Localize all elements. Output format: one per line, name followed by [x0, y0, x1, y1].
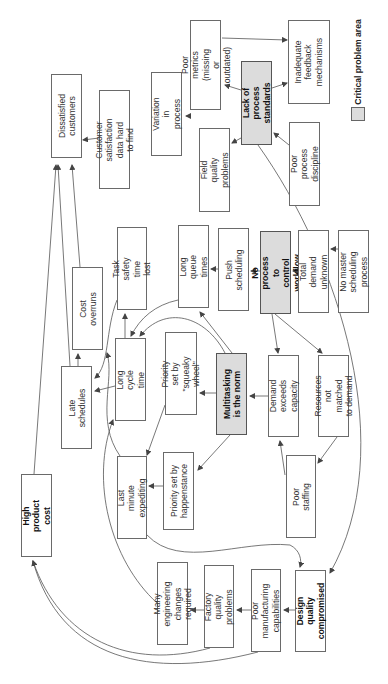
node-label: Design quality compromised [295, 583, 326, 639]
node-lack-standards: Lack of process standards [241, 61, 272, 145]
node-dissatisfied: Dissatisfied customers [51, 74, 82, 158]
node-label: Poor staffing [291, 483, 312, 511]
edge-lack-standards-to-poor-metrics [225, 85, 241, 90]
edge-high-cost-to-dissatisfied [34, 165, 56, 474]
node-label: Long cycle time [115, 370, 146, 390]
edge-squeaky-to-last-minute [147, 405, 165, 455]
node-label: Task safety time lost [111, 257, 153, 280]
edge-no-workflow-to-resources-not [275, 314, 322, 353]
node-label: Poor process discipline [289, 146, 320, 181]
node-poor-staffing: Poor staffing [286, 455, 316, 538]
node-resources-not: Resources not matched to demand [318, 355, 349, 437]
node-no-workflow: No process to control workflow [260, 231, 291, 314]
node-cost-overruns: Cost overruns [72, 267, 103, 350]
edge-poor-staffing-to-demand-exceeds [280, 441, 285, 475]
node-label: Cost overruns [77, 292, 98, 325]
edge-late-sched-to-dissatisfied [58, 165, 70, 366]
node-label: Resources not matched to demand [313, 375, 355, 416]
node-demand-exceeds: Demand exceeds capacity [268, 355, 299, 437]
node-label: Dissatisfied customers [56, 94, 77, 138]
node-label: Multitasking is the norm [221, 369, 242, 419]
edge-poor-discipline-to-lack-standards [274, 133, 289, 145]
node-label: Priority set by happenstance [168, 464, 189, 518]
edge-cost-overruns-to-dissatisfied [72, 165, 80, 267]
node-label: High product cost [21, 500, 52, 532]
node-label: Variation in process [151, 97, 182, 130]
node-design-quality: Design quality compromised [295, 570, 326, 652]
node-label: Inadequate feedback mechanisms [293, 38, 324, 86]
edge-poor-metrics-to-inadequate-feedback [222, 38, 287, 40]
edge-lack-standards-to-inadequate-feedback [272, 83, 287, 88]
node-cust-sat-data: Customer satisfaction data hard to find [99, 90, 130, 189]
node-factory-quality: Factory quality problems [204, 565, 234, 648]
node-late-sched: Late schedules [61, 366, 92, 449]
node-eng-changes: Many engineering changes required [157, 562, 188, 645]
edge-lack-standards-to-field-quality [232, 138, 241, 143]
node-label: No process to control workflow [249, 254, 301, 291]
edge-no-workflow-to-demand-exceeds [272, 314, 278, 353]
node-label: Late schedules [66, 388, 87, 427]
node-poor-discipline: Poor process discipline [289, 122, 320, 206]
node-field-quality: Field quality problems [199, 128, 230, 212]
legend-critical-label: Critical problem area [353, 19, 363, 105]
node-long-cycle: Long cycle time [115, 338, 146, 421]
node-label: Many engineering changes required [152, 581, 194, 626]
node-label: Customer satisfaction data hard to find [94, 118, 136, 161]
node-variation: Variation in process [151, 72, 182, 156]
node-label: Field quality problems [199, 152, 230, 187]
node-high-cost: High product cost [21, 474, 52, 557]
node-poor-mfg: Poor manufacturing capabilities [251, 569, 281, 652]
edge-multitasking-to-happenstance [198, 435, 230, 470]
node-long-queue: Long queue times [178, 225, 209, 308]
edge-long-cycle-to-late-sched [95, 386, 115, 391]
node-no-master: No master scheduling process [338, 230, 369, 313]
node-squeaky: Priority set by "squeaky wheel" [165, 332, 197, 415]
node-inadequate-feedback: Inadequate feedback mechanisms [288, 20, 330, 104]
legend-critical-swatch [351, 107, 365, 121]
edge-resources-not-to-poor-staffing [318, 437, 337, 463]
node-label: Factory quality problems [203, 589, 234, 624]
cause-effect-diagram: Dissatisfied customersCustomer satisfact… [0, 0, 388, 684]
node-label: Demand exceeds capacity [268, 380, 299, 412]
node-label: Poor metrics (missing or outdated) [179, 47, 231, 83]
node-label: No master scheduling process [338, 251, 369, 292]
node-poor-metrics: Poor metrics (missing or outdated) [190, 20, 221, 110]
node-label: Push scheduling [223, 249, 244, 290]
node-total-demand: Total demand unknown [298, 230, 329, 313]
edge-multitasking-to-long-queue [200, 312, 232, 353]
node-push-sched: Push scheduling [218, 228, 249, 311]
node-label: Lack of process standards [241, 82, 272, 123]
node-last-minute: Last minute expediting [117, 456, 147, 539]
node-multitasking: Multitasking is the norm [216, 353, 247, 435]
node-label: Last minute expediting [116, 478, 147, 517]
node-task-safety: Task safety time lost [117, 227, 147, 310]
node-label: Total demand unknown [298, 254, 329, 288]
node-label: Long queue times [178, 255, 209, 279]
node-happenstance: Priority set by happenstance [163, 452, 194, 530]
node-label: Poor manufacturing capabilities [250, 583, 281, 637]
node-label: Priority set by "squeaky wheel" [160, 356, 202, 391]
